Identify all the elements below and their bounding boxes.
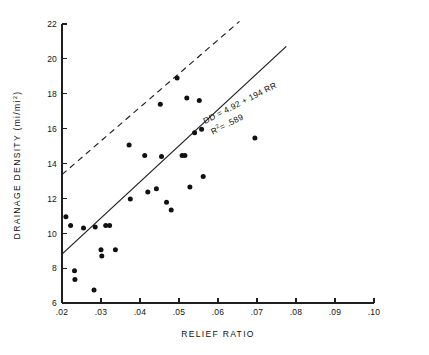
svg-text:DRAINAGE DENSITY (mi/mi2): DRAINAGE DENSITY (mi/mi2)	[12, 91, 22, 240]
x-axis-ticks	[62, 298, 374, 303]
x-tick-label: .06	[212, 307, 224, 317]
y-tick-label: 22	[47, 19, 57, 29]
data-point	[197, 98, 202, 103]
x-tick-label: .09	[329, 307, 341, 317]
data-point	[107, 223, 112, 228]
x-axis-tick-labels: .02 .03 .04 .05 .06 .07 .08 .09 .10	[56, 307, 380, 317]
data-point	[81, 226, 86, 231]
x-tick-label: .04	[134, 307, 146, 317]
data-point	[92, 287, 97, 292]
reference-line	[62, 21, 240, 174]
x-tick-label: .02	[56, 307, 68, 317]
data-point	[127, 143, 132, 148]
y-axis-title-main: DRAINAGE DENSITY (mi/mi	[12, 99, 22, 239]
scatter-plot-svg: 6 8 10 12 14 16 18 20 22 .02 .03 .04 .0	[0, 0, 429, 355]
data-point	[63, 214, 68, 219]
y-tick-label: 14	[47, 159, 57, 169]
data-point	[187, 184, 192, 189]
data-point	[72, 277, 77, 282]
y-axis-title: DRAINAGE DENSITY (mi/mi2)	[12, 91, 22, 240]
data-point	[159, 154, 164, 159]
data-point	[192, 130, 197, 135]
y-tick-label: 10	[47, 229, 57, 239]
x-tick-label: .08	[290, 307, 302, 317]
data-point	[175, 76, 180, 81]
data-point	[128, 197, 133, 202]
y-tick-label: 20	[47, 54, 57, 64]
data-point	[154, 186, 159, 191]
data-point	[201, 174, 206, 179]
y-tick-label: 18	[47, 89, 57, 99]
data-point	[68, 223, 73, 228]
data-point	[99, 253, 104, 258]
data-point	[164, 200, 169, 205]
x-tick-label: .03	[95, 307, 107, 317]
data-point	[145, 190, 150, 195]
x-tick-label: .05	[173, 307, 185, 317]
y-tick-label: 12	[47, 194, 57, 204]
data-point	[72, 268, 77, 273]
x-axis-title: RELIEF RATIO	[181, 329, 255, 339]
data-point	[158, 102, 163, 107]
axes	[62, 24, 374, 303]
y-axis-tick-labels: 6 8 10 12 14 16 18 20 22	[47, 19, 57, 308]
data-point	[182, 153, 187, 158]
data-point	[252, 136, 257, 141]
data-point	[142, 153, 147, 158]
data-point	[113, 247, 118, 252]
data-point	[184, 95, 189, 100]
x-tick-label: .10	[368, 307, 380, 317]
data-point	[169, 208, 174, 213]
regression-annotation: DD = 4.92 + 194 RR R2= .589	[201, 80, 284, 137]
y-axis-ticks	[62, 24, 67, 303]
y-axis-title-tail: )	[12, 91, 22, 95]
data-point	[99, 247, 104, 252]
y-tick-label: 16	[47, 124, 57, 134]
data-point	[199, 127, 204, 132]
chart-figure: 6 8 10 12 14 16 18 20 22 .02 .03 .04 .0	[0, 0, 429, 355]
y-tick-label: 8	[52, 263, 57, 273]
x-tick-label: .07	[251, 307, 263, 317]
data-point	[93, 225, 98, 230]
